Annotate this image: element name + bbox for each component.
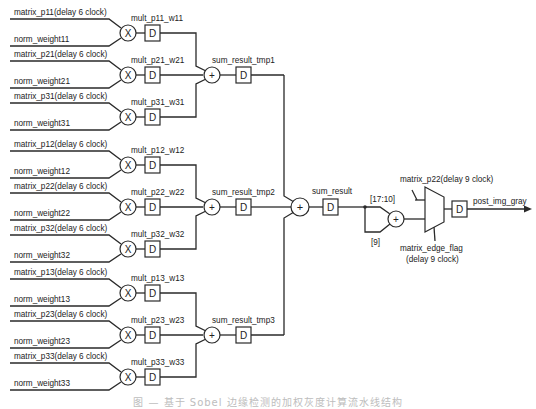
matrix-input-label: matrix_p33(delay 6 clock): [14, 352, 108, 361]
mult-delay-symbol: D: [149, 330, 156, 341]
bits-low-label: [9]: [371, 238, 380, 247]
sum-tmp-label: sum_result_tmp3: [212, 316, 275, 325]
weight-input-label: norm_weight11: [14, 35, 70, 44]
matrix-input-label: matrix_p21(delay 6 clock): [14, 50, 108, 59]
mult-delay-symbol: D: [149, 244, 156, 255]
matrix-input-wire: [10, 363, 121, 372]
weight-input-label: norm_weight21: [14, 77, 70, 86]
matrix-input-label: matrix_p13(delay 6 clock): [14, 268, 108, 277]
mult-delay-symbol: D: [149, 288, 156, 299]
wire-to-adder-top: [160, 165, 206, 203]
group-adder-symbol: +: [209, 330, 215, 341]
mult-label: mult_p12_w12: [131, 146, 185, 155]
group-adder-symbol: +: [209, 202, 215, 213]
rounding-adder-symbol: +: [393, 214, 399, 225]
multiplier-symbol: X: [125, 202, 132, 213]
sum-tmp-delay-symbol: D: [240, 70, 247, 81]
mult-delay-symbol: D: [149, 70, 156, 81]
bits-high-label: [17:10]: [370, 195, 395, 204]
weight-input-label: norm_weight33: [14, 379, 70, 388]
sum-tmp-label: sum_result_tmp2: [212, 188, 275, 197]
mux-select-label: matrix_edge_flag: [400, 244, 463, 253]
matrix-input-wire: [10, 193, 121, 202]
wire-tmp1-to-final-adder: [284, 75, 294, 202]
mult-label: mult_p31_w31: [131, 98, 185, 107]
final-sum-stage: + D sum_result: [259, 75, 353, 335]
mult-delay-symbol: D: [149, 160, 156, 171]
multiplier-symbol: X: [125, 70, 132, 81]
mult-delay-symbol: D: [149, 202, 156, 213]
matrix-input-label: matrix_p23(delay 6 clock): [14, 310, 108, 319]
sum-result-delay-symbol: D: [327, 202, 334, 213]
matrix-input-label: matrix_p31(delay 6 clock): [14, 92, 108, 101]
matrix-input-wire: [10, 103, 121, 112]
weight-input-label: norm_weight23: [14, 337, 70, 346]
mult-label: mult_p11_w11: [131, 14, 183, 23]
sum-result-label: sum_result: [312, 187, 353, 196]
matrix-input-label: matrix_p32(delay 6 clock): [14, 224, 108, 233]
matrix-input-label: matrix_p22(delay 6 clock): [14, 182, 108, 191]
mult-label: mult_p33_w33: [131, 358, 185, 367]
matrix-input-label: matrix_p12(delay 6 clock): [14, 140, 108, 149]
multiplier-symbol: X: [125, 112, 132, 123]
mux-input-label: matrix_p22(delay 9 clock): [400, 175, 494, 184]
weight-input-label: norm_weight13: [14, 295, 70, 304]
sum-tmp-label: sum_result_tmp1: [212, 56, 275, 65]
multiplier-symbol: X: [125, 28, 132, 39]
multiplier-symbol: X: [125, 372, 132, 383]
mux-icon: [425, 187, 444, 232]
matrix-input-label: matrix_p11(delay 6 clock): [14, 8, 107, 17]
weight-input-label: norm_weight22: [14, 209, 70, 218]
multiplier-symbol: X: [125, 330, 132, 341]
mult-label: mult_p23_w23: [131, 316, 185, 325]
rounding-stage: [17:10] [9] +: [338, 195, 425, 247]
wire-bits-high: [365, 207, 390, 214]
multiplier-symbol: X: [125, 160, 132, 171]
matrix-input-wire: [10, 321, 121, 330]
group-adder-symbol: +: [209, 70, 215, 81]
weight-input-label: norm_weight32: [14, 251, 70, 260]
mult-delay-symbol: D: [149, 28, 156, 39]
wire-tmp3-to-final-adder: [284, 212, 294, 335]
figure-caption: 图 — 基于 Sobel 边缘检测的加权灰度计算流水线结构: [0, 394, 536, 409]
mult-label: mult_p21_w21: [131, 56, 185, 65]
sum-tmp-delay-symbol: D: [240, 202, 247, 213]
multiply-accumulate-groups: matrix_p11(delay 6 clock)norm_weight11XD…: [10, 8, 284, 390]
mult-delay-symbol: D: [149, 372, 156, 383]
matrix-input-wire: [10, 151, 121, 160]
mult-label: mult_p32_w32: [131, 230, 185, 239]
mux-input-leader: [412, 190, 417, 200]
mux-select-delay-label: (delay 9 clock): [406, 255, 459, 264]
matrix-input-wire: [10, 235, 121, 244]
weight-input-label: norm_weight12: [14, 167, 70, 176]
mult-delay-symbol: D: [149, 112, 156, 123]
matrix-input-wire: [10, 61, 121, 70]
matrix-input-wire: [10, 19, 121, 28]
wire-to-adder-top: [160, 293, 206, 331]
weight-input-label: norm_weight31: [14, 119, 70, 128]
wire-to-adder-top: [160, 33, 206, 71]
wire-mux-select: [434, 227, 435, 241]
mult-label: mult_p22_w22: [131, 188, 185, 197]
matrix-input-wire: [10, 279, 121, 288]
sum-tmp-delay-symbol: D: [240, 330, 247, 341]
final-adder-symbol: +: [297, 201, 303, 213]
multiplier-symbol: X: [125, 244, 132, 255]
output-delay-symbol: D: [456, 204, 463, 215]
mult-label: mult_p13_w13: [131, 274, 185, 283]
output-arrow-icon: [524, 206, 532, 213]
output-label: post_img_gray: [473, 197, 528, 206]
multiplier-symbol: X: [125, 288, 132, 299]
